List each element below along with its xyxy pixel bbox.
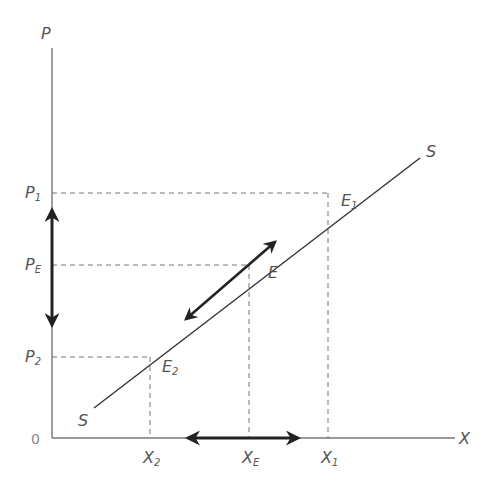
supply-diagram: P X 0 S S P1 PE P2 X2 XE X1 E1 E E2: [0, 0, 491, 485]
y-axis-label: P: [41, 24, 51, 43]
point-label-e: E: [268, 263, 279, 282]
point-label-e1: E1: [341, 191, 357, 211]
curve-label-top: S: [426, 142, 436, 161]
supply-curve: [94, 158, 420, 408]
quantity-label-x2: X2: [142, 448, 160, 468]
price-label-p2: P2: [25, 347, 41, 367]
x-axis-label: X: [458, 429, 471, 448]
price-label-p1: P1: [25, 183, 41, 203]
price-label-pe: PE: [25, 255, 42, 275]
origin-label: 0: [31, 431, 40, 447]
curve-label-bottom: S: [78, 411, 88, 430]
quantity-label-xe: XE: [241, 448, 260, 468]
point-label-e2: E2: [162, 357, 178, 377]
movement-along-curve-arrow: [186, 242, 275, 319]
quantity-label-x1: X1: [320, 448, 338, 468]
